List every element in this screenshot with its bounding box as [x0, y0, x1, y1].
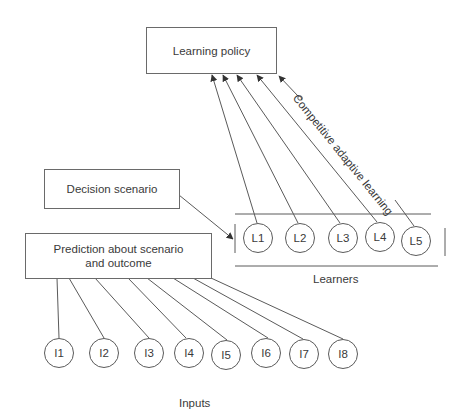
input-node-i7: I7 [289, 339, 319, 369]
learner-label: L4 [374, 231, 387, 243]
learning-policy-box: Learning policy [146, 27, 277, 74]
input-label: I7 [299, 348, 309, 360]
input-label: I3 [144, 347, 154, 359]
input-label: I1 [54, 347, 64, 359]
input-label: I8 [338, 348, 348, 360]
line-prediction-i3 [95, 278, 149, 338]
input-label: I2 [99, 347, 109, 359]
learner-label: L1 [252, 232, 265, 244]
input-node-i4: I4 [174, 338, 204, 368]
line-prediction-i6 [173, 278, 268, 338]
learner-node-l1: L1 [243, 223, 273, 253]
prediction-box: Prediction about scenario and outcome [25, 233, 212, 279]
line-l5-segment [395, 200, 414, 226]
prediction-label: Prediction about scenario and outcome [46, 242, 191, 270]
input-node-i2: I2 [89, 338, 119, 368]
input-node-i6: I6 [251, 338, 281, 368]
line-prediction-i7 [193, 278, 303, 339]
input-node-i5: I5 [211, 340, 241, 370]
learner-node-l3: L3 [328, 223, 358, 253]
learner-node-l4: L4 [365, 222, 395, 252]
line-prediction-i2 [69, 278, 104, 338]
learner-label: L3 [337, 232, 350, 244]
input-node-i1: I1 [44, 338, 74, 368]
arrow-l4-to-policy [257, 75, 377, 222]
learner-node-l2: L2 [285, 223, 315, 253]
input-label: I4 [184, 347, 194, 359]
learning-policy-label: Learning policy [173, 44, 250, 58]
line-prediction-i4 [128, 278, 186, 338]
learner-node-l5: L5 [401, 226, 431, 256]
line-prediction-i1 [57, 278, 59, 338]
learner-label: L5 [410, 235, 423, 247]
learners-group-label: Learners [313, 273, 358, 285]
inputs-group-label: Inputs [179, 397, 210, 409]
input-node-i8: I8 [328, 339, 358, 369]
arrow-l5-to-policy [279, 76, 298, 96]
learner-label: L2 [294, 232, 307, 244]
input-label: I5 [221, 349, 231, 361]
arrow-l3-to-policy [237, 75, 340, 223]
input-label: I6 [261, 347, 271, 359]
decision-scenario-box: Decision scenario [44, 169, 180, 209]
input-node-i3: I3 [134, 338, 164, 368]
line-prediction-i8 [211, 278, 343, 339]
decision-scenario-label: Decision scenario [67, 182, 158, 196]
